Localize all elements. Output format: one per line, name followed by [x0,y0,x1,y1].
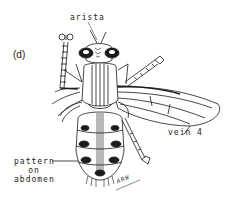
fly-illustration: (d) arista vein 4 pattern on abdomen ARW [0,0,233,200]
leg-right-hind [122,118,150,164]
leg-right-raised [118,56,164,86]
arista-label: arista [70,13,105,22]
pattern-label-line2: on [14,166,54,175]
thorax [82,63,118,109]
pattern-label-line3: abdomen [14,175,54,184]
head [79,22,119,63]
wing-left-fragments [52,88,82,116]
leg-left-raised [59,34,82,88]
pattern-label-line1: pattern [14,157,54,166]
vein-label: vein 4 [168,128,203,137]
wing-right [110,86,220,126]
panel-label: (d) [13,49,25,60]
pattern-label: pattern on abdomen [14,157,54,184]
abdomen [76,112,124,187]
